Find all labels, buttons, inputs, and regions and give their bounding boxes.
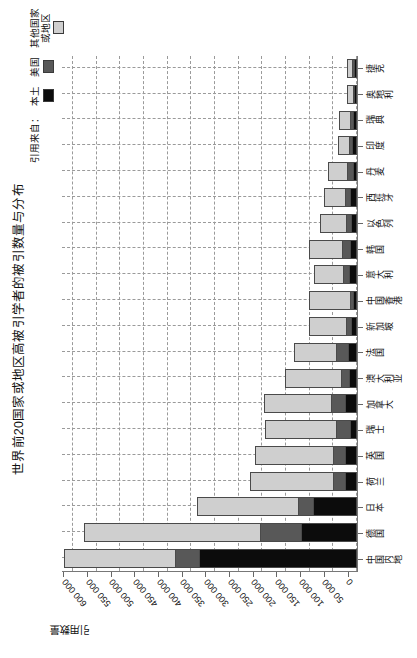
bar-segment	[350, 370, 356, 387]
bar-segment	[342, 370, 350, 387]
legend-item: 美国	[30, 57, 64, 77]
value-axis-tick: 200 000	[248, 572, 258, 613]
legend-item: 其他国家或地区	[30, 8, 64, 48]
bar-segment	[352, 318, 356, 335]
value-axis-tick: 500 000	[106, 572, 116, 613]
bar-segment	[329, 163, 348, 180]
category-axis-tick: 荷兰	[358, 473, 416, 492]
category-axis-tick-mark	[358, 223, 363, 224]
bar	[338, 137, 357, 156]
bar	[309, 317, 358, 336]
category-axis-tick: 韩国	[358, 240, 416, 259]
legend-item-label: 本土	[30, 86, 41, 106]
category-axis-tick: 英国	[358, 447, 416, 466]
legend-item-label: 其他国家或地区	[30, 8, 51, 48]
bar	[64, 549, 357, 568]
bar	[84, 523, 357, 542]
category-axis-tick-mark	[358, 146, 363, 147]
value-axis-tick: 250 000	[225, 572, 235, 613]
bar	[309, 291, 357, 310]
bar-segment	[295, 344, 337, 361]
category-axis-tick: 印度	[358, 137, 416, 156]
bar	[339, 111, 357, 130]
bar-segment	[321, 215, 347, 232]
bar	[285, 369, 357, 388]
legend-swatch	[43, 61, 54, 74]
category-axis-tick-mark	[358, 94, 363, 95]
category-axis-tick-label: 瑞典	[366, 116, 384, 125]
category-axis-tick: 加拿大	[358, 395, 416, 414]
category-axis-tick-mark	[358, 456, 363, 457]
category-axis-tick: 德国	[358, 524, 416, 543]
category-axis-tick-mark	[358, 507, 363, 508]
bar	[309, 240, 358, 259]
bar-segment	[355, 60, 356, 77]
bar-segment	[346, 447, 356, 464]
bar	[324, 188, 357, 207]
bar	[294, 343, 357, 362]
bar-segment	[310, 292, 351, 309]
bar-segment	[337, 421, 350, 438]
bar-segment	[256, 447, 334, 464]
value-axis-tick: 0	[343, 572, 353, 585]
category-axis-tick-label: 加拿大	[366, 400, 393, 409]
category-axis-tick-label: 英国	[366, 452, 384, 461]
value-axis-tick-mark	[134, 572, 135, 577]
bar-segment	[314, 498, 356, 515]
category-axis-tick: 新加坡	[358, 318, 416, 337]
bar-segment	[334, 447, 345, 464]
category-axis-tick: 瑞典	[358, 111, 416, 130]
bar-segment	[198, 498, 299, 515]
bar-segment	[354, 112, 356, 129]
legend-swatch	[43, 90, 54, 103]
value-axis-tick: 600 000	[59, 572, 69, 613]
bar-segment	[266, 421, 338, 438]
bar-segment	[85, 524, 260, 541]
category-axis-tick-mark	[358, 404, 363, 405]
category-axis-tick-mark	[358, 482, 363, 483]
category-axis-tick-label: 中国内地	[366, 555, 402, 564]
value-axis-tick-mark	[348, 572, 349, 577]
value-axis-tick-mark	[158, 572, 159, 577]
bar-segment	[355, 86, 356, 103]
value-axis-tick-mark	[87, 572, 88, 577]
legend-title: 引用来自：	[30, 113, 41, 163]
bar-segment	[349, 344, 356, 361]
category-axis-tick-label: 捷克	[366, 64, 384, 73]
value-axis-tick: 350 000	[177, 572, 187, 613]
category-axis-tick: 中国香港	[358, 292, 416, 311]
bar	[255, 446, 357, 465]
bar-segment	[310, 241, 343, 258]
category-axis-tick-label: 澳大利亚	[366, 374, 402, 383]
value-axis-tick-mark	[182, 572, 183, 577]
value-axis-tick: 400 000	[154, 572, 164, 613]
bar	[314, 265, 357, 284]
bar-segment	[350, 266, 356, 283]
value-axis-tick-mark	[276, 572, 277, 577]
category-axis-tick: 捷克	[358, 59, 416, 78]
category-axis-tick-label: 奥地利	[366, 90, 393, 99]
bar-segment	[346, 473, 356, 490]
category-axis-tick-label: 丹麦	[366, 168, 384, 177]
category-axis-tick-mark	[358, 120, 363, 121]
bar-segment	[332, 395, 345, 412]
bar-group	[62, 56, 357, 571]
category-axis-tick: 丹麦	[358, 163, 416, 182]
bar	[347, 59, 357, 78]
bar-segment	[176, 550, 200, 567]
value-axis-tick: 550 000	[83, 572, 93, 613]
category-axis-tick-mark	[358, 378, 363, 379]
category-axis-tick-label: 韩国	[366, 245, 384, 254]
bar	[264, 394, 357, 413]
bar-segment	[346, 395, 356, 412]
category-axis-tick-mark	[358, 533, 363, 534]
category-axis-tick: 意大利	[358, 266, 416, 285]
value-axis-tick-mark	[63, 572, 64, 577]
category-axis-tick-label: 法国	[366, 348, 384, 357]
bar-segment	[299, 498, 314, 515]
category-axis-tick-mark	[358, 68, 363, 69]
bar-segment	[353, 138, 356, 155]
bar-segment	[351, 189, 356, 206]
bar-segment	[354, 292, 356, 309]
bar-segment	[310, 318, 348, 335]
